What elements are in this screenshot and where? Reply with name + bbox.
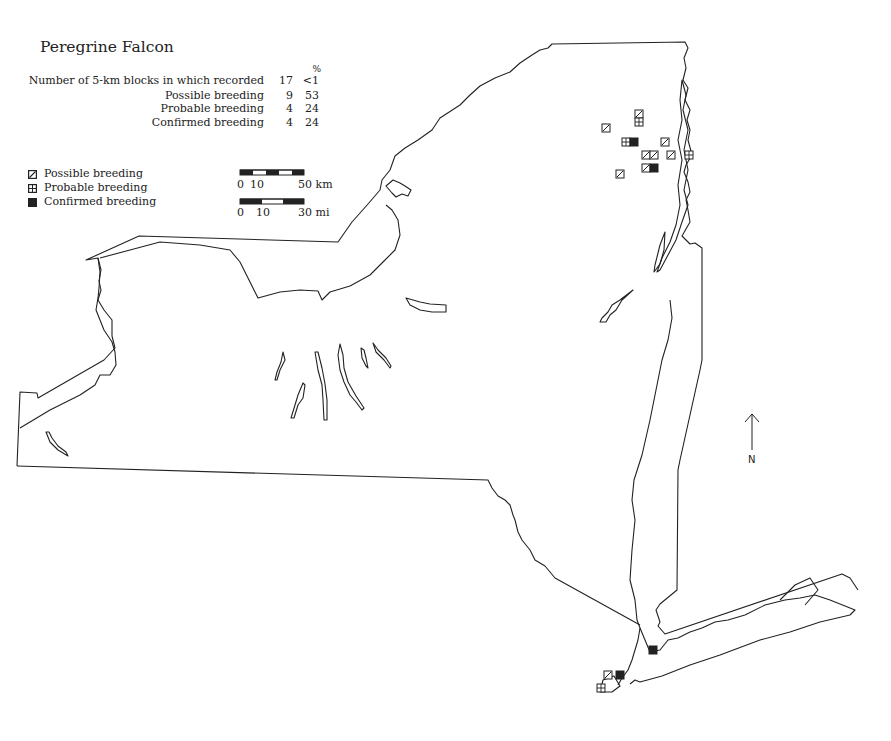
probable-breeding-marker (597, 684, 605, 692)
north-label: N (748, 454, 755, 465)
confirmed-breeding-marker (649, 646, 657, 654)
possible-breeding-marker (667, 151, 675, 159)
confirmed-breeding-marker (616, 671, 624, 679)
possible-breeding-marker (661, 138, 669, 146)
confirmed-breeding-marker (650, 164, 658, 172)
probable-breeding-marker (635, 118, 643, 126)
possible-breeding-marker (650, 151, 658, 159)
confirmed-breeding-marker (630, 138, 638, 146)
probable-breeding-marker (685, 151, 693, 159)
possible-breeding-marker (642, 164, 650, 172)
possible-breeding-marker (642, 151, 650, 159)
possible-breeding-marker (602, 124, 610, 132)
probable-breeding-marker (622, 138, 630, 146)
possible-breeding-marker (616, 170, 624, 178)
possible-breeding-marker (604, 671, 612, 679)
possible-breeding-marker (635, 110, 643, 118)
record-markers (0, 0, 891, 741)
